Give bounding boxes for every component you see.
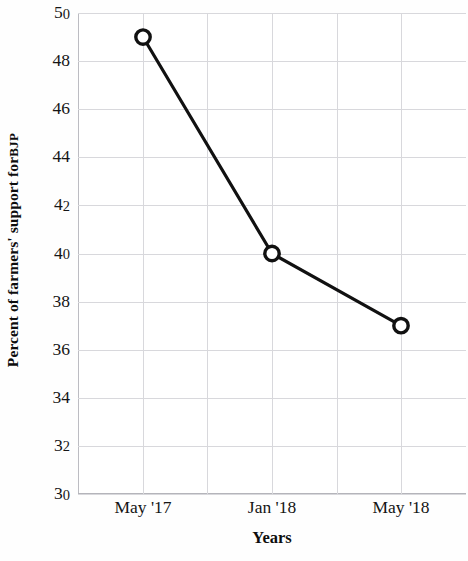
y-tick-label: 34: [53, 389, 71, 407]
y-tick-label: 48: [53, 52, 71, 70]
data-series-line: [78, 13, 466, 494]
y-tick-label: 36: [53, 341, 71, 359]
data-point-marker: [394, 318, 408, 332]
y-axis-title-text: Percent of farmers' support for: [4, 157, 21, 367]
y-tick-label: 30: [54, 485, 70, 503]
y-axis-title: Percent of farmers' support forBJP: [0, 0, 26, 500]
x-tick-label: May '18: [372, 498, 429, 517]
y-tick-label: 38: [53, 293, 71, 311]
series-polyline: [143, 37, 401, 326]
y-tick-label: 32: [54, 437, 70, 455]
x-tick-label: Jan '18: [248, 498, 296, 517]
line-chart-figure: Percent of farmers' support forBJP 50484…: [0, 0, 468, 561]
data-point-marker: [136, 30, 150, 44]
x-axis-tick-labels: May '17Jan '18May '18: [78, 498, 466, 528]
y-tick-label: 50: [54, 4, 70, 22]
y-axis-title-smallcaps: BJP: [6, 133, 21, 157]
y-tick-label: 40: [54, 245, 70, 263]
y-tick-label: 46: [53, 100, 71, 118]
gridline-y-30: [78, 494, 466, 495]
plot-area: [78, 13, 466, 494]
x-axis-title: Years: [78, 528, 466, 548]
x-tick-label: May '17: [114, 498, 171, 517]
y-axis-tick-labels: 5048464442403836343230: [26, 0, 76, 561]
y-tick-label: 44: [53, 149, 71, 167]
data-point-marker: [265, 246, 279, 260]
y-tick-label: 42: [54, 197, 70, 215]
